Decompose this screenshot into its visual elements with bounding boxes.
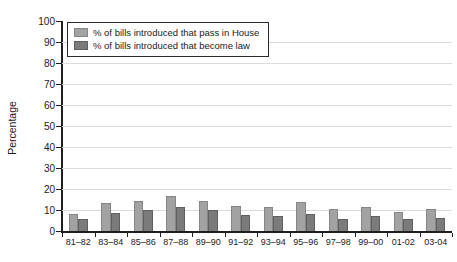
bar-pass-house [426,209,436,231]
legend-swatch [74,41,88,50]
y-tick-mark [56,231,61,232]
y-tick-mark [56,189,61,190]
bar-become-law [436,218,446,231]
bar-become-law [78,219,88,231]
bar-pass-house [69,214,79,231]
legend-label: % of bills introduced that pass in House [93,27,259,38]
y-tick-label: 10 [44,205,55,216]
x-tick-label: 99–00 [354,237,387,247]
y-tick-mark [56,168,61,169]
bar-become-law [176,207,186,231]
y-tick-label: 60 [44,100,55,111]
bar-pass-house [394,212,404,231]
bar-become-law [143,210,153,231]
bar-become-law [111,213,121,231]
y-tick-mark [56,126,61,127]
y-tick-label: 40 [44,142,55,153]
x-tick-label: 01-02 [387,237,420,247]
legend-label: % of bills introduced that become law [93,40,250,51]
y-tick-mark [56,84,61,85]
x-tick-label: 03-04 [419,237,452,247]
y-axis-title: Percentage [6,101,18,155]
bar-pass-house [264,207,274,231]
bar-pass-house [199,201,209,231]
gridline [62,63,452,64]
x-tick-label: 85–86 [127,237,160,247]
y-tick-mark [56,42,61,43]
gridline [62,189,452,190]
bar-chart-figure: Percentage 0102030405060708090100 81–828… [0,0,457,262]
legend-item: % of bills introduced that pass in House [74,26,259,39]
y-tick-label: 90 [44,37,55,48]
y-tick-label: 50 [44,121,55,132]
bar-become-law [338,219,348,231]
gridline [62,210,452,211]
gridline [62,168,452,169]
x-tick-label: 87–88 [159,237,192,247]
y-tick-mark [56,21,61,22]
bar-pass-house [166,196,176,231]
x-tick-label: 95–96 [289,237,322,247]
bar-pass-house [329,209,339,231]
x-tick-label: 93–94 [257,237,290,247]
bar-become-law [241,215,251,231]
legend: % of bills introduced that pass in House… [67,22,269,57]
bar-pass-house [134,201,144,231]
bar-pass-house [361,207,371,231]
x-tick-label: 89–90 [192,237,225,247]
y-tick-label: 20 [44,184,55,195]
gridline [62,147,452,148]
y-tick-mark [56,210,61,211]
y-tick-mark [56,147,61,148]
x-tick-label: 97–98 [322,237,355,247]
bar-become-law [371,216,381,231]
y-tick-label: 0 [49,226,55,237]
bar-become-law [273,216,283,231]
gridline [62,84,452,85]
bar-become-law [306,214,316,231]
y-tick-mark [56,105,61,106]
x-tick-label: 91–92 [224,237,257,247]
bar-become-law [403,219,413,231]
bar-pass-house [231,206,241,231]
gridline [62,105,452,106]
legend-swatch [74,28,88,37]
bar-become-law [208,210,218,231]
x-tick-label: 81–82 [62,237,95,247]
legend-item: % of bills introduced that become law [74,39,259,52]
gridline [62,126,452,127]
y-tick-label: 100 [38,16,55,27]
bar-pass-house [101,203,111,231]
y-tick-label: 70 [44,79,55,90]
y-tick-mark [56,63,61,64]
y-tick-label: 30 [44,163,55,174]
bar-pass-house [296,202,306,231]
x-tick-label: 83–84 [94,237,127,247]
y-tick-label: 80 [44,58,55,69]
